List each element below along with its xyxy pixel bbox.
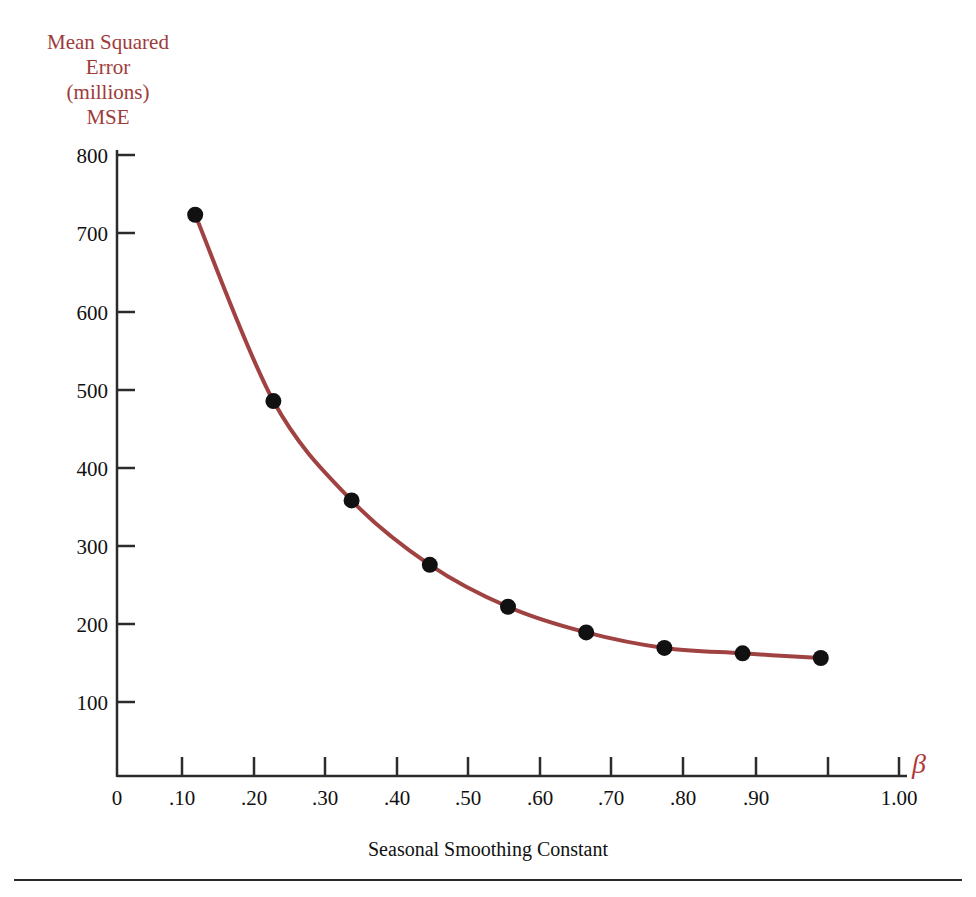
data-point-markers bbox=[187, 207, 829, 666]
x-tick-label: .70 bbox=[598, 786, 624, 810]
x-tick-label: .40 bbox=[384, 786, 410, 810]
data-point-marker bbox=[656, 640, 672, 656]
y-axis-ticks bbox=[117, 155, 135, 702]
data-point-marker bbox=[422, 557, 438, 573]
data-series-line bbox=[195, 215, 821, 658]
beta-axis-symbol: β bbox=[912, 748, 926, 780]
y-tick-label: 100 bbox=[77, 691, 109, 715]
x-tick-label: 0 bbox=[112, 786, 123, 810]
chart-figure: Mean Squared Error (millions) MSE 800 70… bbox=[0, 0, 976, 897]
x-axis-ticks bbox=[182, 757, 899, 776]
y-axis: 800 700 600 500 400 300 200 100 bbox=[77, 144, 136, 777]
chart-plot-area: 800 700 600 500 400 300 200 100 bbox=[0, 0, 976, 897]
y-tick-label: 800 bbox=[77, 144, 109, 168]
data-point-marker bbox=[187, 207, 203, 223]
footer-divider bbox=[14, 879, 962, 881]
x-tick-label: .10 bbox=[169, 786, 195, 810]
y-tick-labels: 800 700 600 500 400 300 200 100 bbox=[77, 144, 109, 715]
data-point-marker bbox=[344, 492, 360, 508]
data-point-marker bbox=[813, 650, 829, 666]
x-axis-title: Seasonal Smoothing Constant bbox=[0, 838, 976, 861]
x-tick-label: .50 bbox=[455, 786, 481, 810]
y-tick-label: 400 bbox=[77, 457, 109, 481]
x-axis: 0 .10 .20 .30 .40 .50 .60 .70 .80 .90 1.… bbox=[112, 757, 918, 810]
data-point-marker bbox=[500, 599, 516, 615]
y-tick-label: 300 bbox=[77, 535, 109, 559]
x-tick-label: .20 bbox=[241, 786, 267, 810]
x-tick-label: 1.00 bbox=[881, 786, 918, 810]
x-tick-label: .90 bbox=[743, 786, 769, 810]
y-tick-label: 700 bbox=[77, 222, 109, 246]
x-tick-label: .80 bbox=[670, 786, 696, 810]
x-tick-label: .30 bbox=[312, 786, 338, 810]
x-tick-labels: 0 .10 .20 .30 .40 .50 .60 .70 .80 .90 1.… bbox=[112, 786, 918, 810]
data-point-marker bbox=[265, 393, 281, 409]
y-tick-label: 200 bbox=[77, 613, 109, 637]
y-tick-label: 500 bbox=[77, 379, 109, 403]
y-tick-label: 600 bbox=[77, 301, 109, 325]
x-tick-label: .60 bbox=[527, 786, 553, 810]
data-point-marker bbox=[735, 645, 751, 661]
data-point-marker bbox=[578, 624, 594, 640]
